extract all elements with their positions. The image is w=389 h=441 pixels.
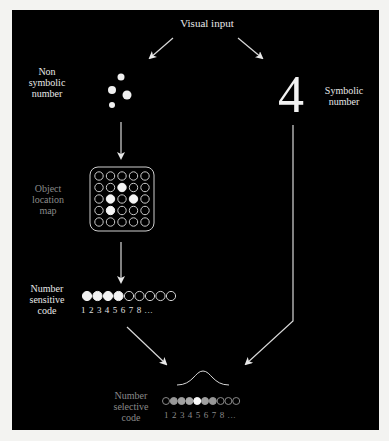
selective-unit-inactive (217, 398, 224, 405)
grid-cell-empty (141, 183, 149, 191)
selective-unit-active (186, 398, 193, 405)
arrow-to-symbolic (238, 38, 262, 58)
selective-unit-active (202, 398, 209, 405)
grid-cell-empty (141, 218, 149, 226)
selective-unit-inactive (233, 398, 240, 405)
symbolic-number-glyph: 4 (278, 69, 304, 121)
grid-cell-empty (95, 218, 103, 226)
grid-cell-filled (106, 206, 114, 214)
grid-cell-empty (129, 206, 137, 214)
sensitive-unit-on (114, 291, 123, 300)
grid-cell-filled (106, 195, 114, 203)
number-sensitive-units (82, 291, 175, 300)
sensitive-unit-off (166, 291, 175, 300)
sensitive-unit-off (135, 291, 144, 300)
grid-cell-empty (129, 183, 137, 191)
location-map-box (90, 167, 154, 231)
grid-cell-empty (95, 195, 103, 203)
object-location-map-label: Object location map (20, 183, 76, 216)
grid-cell-empty (106, 183, 114, 191)
tuning-curve (177, 371, 229, 385)
grid-cell-empty (118, 218, 126, 226)
number-sensitive-code-label: Number sensitive code (18, 283, 76, 316)
location-map-grid (95, 172, 149, 226)
visual-input-label: Visual input (176, 18, 238, 29)
sensitive-unit-off (124, 291, 133, 300)
nonsymbolic-dots (108, 74, 132, 109)
dot (123, 91, 132, 100)
number-sensitive-digits: 1 2 3 4 5 6 7 8 ... (81, 305, 153, 315)
grid-cell-empty (141, 172, 149, 180)
grid-cell-filled (118, 183, 126, 191)
dot (108, 86, 116, 94)
grid-cell-empty (95, 183, 103, 191)
arrow-sensitive-to-selective (127, 327, 166, 364)
sensitive-unit-on (93, 291, 102, 300)
sensitive-unit-off (145, 291, 154, 300)
selective-unit-active (170, 398, 177, 405)
grid-cell-empty (129, 218, 137, 226)
number-selective-units (163, 398, 240, 405)
grid-cell-empty (141, 206, 149, 214)
grid-cell-empty (95, 172, 103, 180)
grid-cell-empty (129, 172, 137, 180)
number-selective-digits: 1 2 3 4 5 6 7 8 ... (164, 410, 236, 420)
sensitive-unit-on (103, 291, 112, 300)
grid-cell-filled (129, 195, 137, 203)
selective-unit-active (178, 398, 185, 405)
selective-unit-inactive (163, 398, 170, 405)
sensitive-unit-on (82, 291, 91, 300)
grid-cell-empty (118, 195, 126, 203)
arrow-to-nonsymbolic (150, 38, 173, 58)
grid-cell-empty (106, 218, 114, 226)
selective-unit-active (194, 398, 201, 405)
grid-cell-empty (118, 206, 126, 214)
grid-cell-empty (118, 172, 126, 180)
selective-unit-active (209, 398, 216, 405)
number-selective-code-label: Number selective code (103, 390, 159, 423)
symbolic-number-label: Symbolic number (318, 85, 370, 107)
selective-unit-inactive (225, 398, 232, 405)
sensitive-unit-off (156, 291, 165, 300)
grid-cell-empty (106, 172, 114, 180)
arrow-symbolic-to-selective (246, 125, 293, 364)
grid-cell-empty (95, 206, 103, 214)
nonsymbolic-number-label: Non symbolic number (16, 66, 78, 99)
dot (118, 74, 125, 81)
dot (109, 102, 115, 108)
grid-cell-empty (141, 195, 149, 203)
